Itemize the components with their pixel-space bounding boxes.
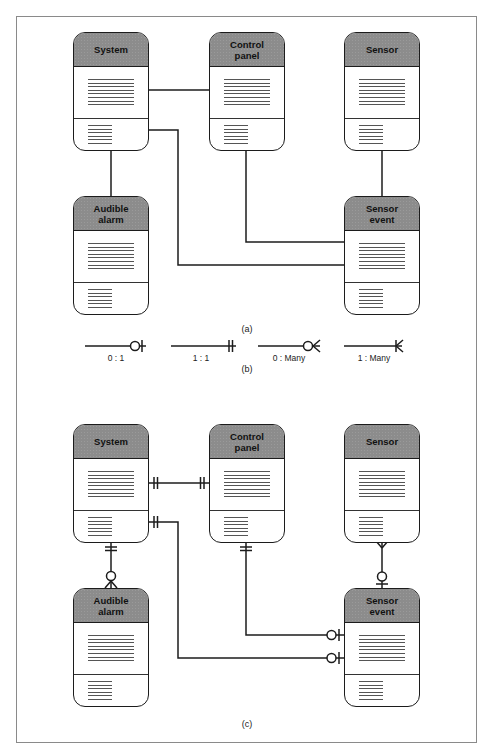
entity-attributes bbox=[345, 67, 419, 119]
notation-one-to-one bbox=[171, 340, 236, 352]
connector-c-control-panel-sensor-event bbox=[240, 541, 344, 641]
notation-zero-to-one bbox=[85, 340, 146, 352]
panel-b-notations bbox=[85, 340, 403, 352]
entity-system-c: System bbox=[73, 424, 149, 543]
entity-operations bbox=[345, 119, 419, 150]
entity-sensor-c: Sensor bbox=[344, 424, 420, 543]
entity-sensor-event-a: Sensor event bbox=[344, 196, 420, 315]
attribute-lines bbox=[88, 79, 134, 107]
entity-operations bbox=[74, 119, 148, 150]
attribute-lines bbox=[359, 79, 405, 107]
operation-lines bbox=[359, 289, 383, 309]
entity-title: Audible alarm bbox=[74, 589, 148, 623]
attribute-lines bbox=[88, 635, 134, 663]
entity-control-panel-a: Control panel bbox=[209, 32, 285, 151]
entity-sensor-a: Sensor bbox=[344, 32, 420, 151]
entity-operations bbox=[210, 119, 284, 150]
connector-c-sensor-sensor-event bbox=[376, 541, 388, 588]
entity-title: Control panel bbox=[210, 33, 284, 67]
notation-one-to-many bbox=[344, 340, 403, 352]
operation-lines bbox=[359, 125, 383, 145]
attribute-lines bbox=[88, 471, 134, 499]
caption-c: (c) bbox=[242, 719, 253, 729]
entity-operations bbox=[74, 283, 148, 314]
entity-operations bbox=[345, 283, 419, 314]
entity-attributes bbox=[345, 231, 419, 283]
operation-lines bbox=[88, 517, 112, 537]
entity-operations bbox=[210, 511, 284, 542]
entity-operations bbox=[345, 511, 419, 542]
entity-attributes bbox=[345, 623, 419, 675]
entity-attributes bbox=[345, 459, 419, 511]
connector-c-system-control-panel bbox=[149, 477, 209, 489]
operation-lines bbox=[224, 517, 248, 537]
operation-lines bbox=[88, 681, 112, 701]
operation-lines bbox=[359, 681, 383, 701]
notation-label-zero-to-one: 0 : 1 bbox=[108, 353, 125, 363]
entity-audible-alarm-a: Audible alarm bbox=[73, 196, 149, 315]
entity-attributes bbox=[210, 459, 284, 511]
attribute-lines bbox=[359, 243, 405, 271]
entity-title: System bbox=[74, 425, 148, 459]
notation-label-one-to-many: 1 : Many bbox=[358, 353, 391, 363]
notation-label-zero-to-many: 0 : Many bbox=[273, 353, 306, 363]
operation-lines bbox=[88, 289, 112, 309]
entity-title: Sensor bbox=[345, 33, 419, 67]
entity-title: Sensor event bbox=[345, 197, 419, 231]
entity-operations bbox=[345, 675, 419, 706]
entity-attributes bbox=[74, 67, 148, 119]
attribute-lines bbox=[224, 471, 270, 499]
entity-title: Audible alarm bbox=[74, 197, 148, 231]
entity-title: Sensor event bbox=[345, 589, 419, 623]
entity-control-panel-c: Control panel bbox=[209, 424, 285, 543]
caption-a: (a) bbox=[242, 324, 253, 334]
attribute-lines bbox=[224, 79, 270, 107]
entity-operations bbox=[74, 511, 148, 542]
entity-operations bbox=[74, 675, 148, 706]
entity-title: System bbox=[74, 33, 148, 67]
entity-attributes bbox=[74, 623, 148, 675]
entity-attributes bbox=[210, 67, 284, 119]
operation-lines bbox=[224, 125, 248, 145]
notation-label-one-to-one: 1 : 1 bbox=[193, 353, 210, 363]
entity-attributes bbox=[74, 231, 148, 283]
entity-title: Control panel bbox=[210, 425, 284, 459]
entity-system-a: System bbox=[73, 32, 149, 151]
notation-zero-to-many bbox=[258, 340, 320, 352]
caption-b: (b) bbox=[242, 364, 253, 374]
entity-audible-alarm-c: Audible alarm bbox=[73, 588, 149, 707]
entity-attributes bbox=[74, 459, 148, 511]
connector-c-system-audible-alarm bbox=[105, 541, 117, 588]
operation-lines bbox=[88, 125, 112, 145]
entity-title: Sensor bbox=[345, 425, 419, 459]
operation-lines bbox=[359, 517, 383, 537]
attribute-lines bbox=[359, 471, 405, 499]
connector-control-panel-sensor-event bbox=[246, 149, 344, 242]
attribute-lines bbox=[359, 635, 405, 663]
entity-sensor-event-c: Sensor event bbox=[344, 588, 420, 707]
attribute-lines bbox=[88, 243, 134, 271]
